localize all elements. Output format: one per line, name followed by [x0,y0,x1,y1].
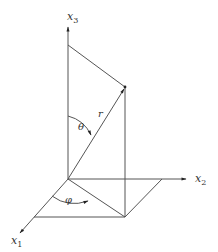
x1-axis [20,179,68,233]
x3-label: x3 [67,10,78,25]
projection-line [68,179,125,217]
phi-label: φ [65,194,72,205]
x2-label: x2 [195,172,206,187]
spherical-coordinates-diagram: x3 x2 x1 r θ φ [0,0,218,252]
x3-projection-line [68,45,125,87]
radius-vector [68,89,124,179]
point [124,86,127,89]
x1-label: x1 [11,234,22,249]
x2-parallel-line [125,179,162,217]
theta-label: θ [78,121,84,132]
r-label: r [98,108,104,119]
